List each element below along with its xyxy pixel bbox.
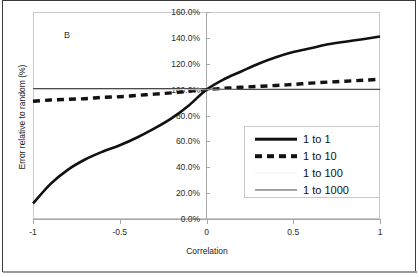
legend-line-icon xyxy=(255,173,297,174)
legend-swatch-icon xyxy=(253,183,299,197)
legend-swatch-icon xyxy=(253,166,299,180)
legend-line-icon xyxy=(255,138,297,141)
legend-item-label: 1 to 1 xyxy=(303,134,331,145)
legend-item-label: 1 to 1000 xyxy=(303,185,349,196)
legend-line-icon xyxy=(255,189,297,190)
y-axis-title: Error relative to random (%) xyxy=(17,27,27,207)
legend-line-icon xyxy=(255,154,297,158)
x-axis-title: Correlation xyxy=(33,246,381,256)
chart-legend: 1 to 11 to 101 to 1001 to 1000 xyxy=(244,126,380,198)
legend-item-label: 1 to 100 xyxy=(303,168,343,179)
line-chart: 0.0%20.0%40.0%60.0%80.0%100.0%120.0%140.… xyxy=(0,0,419,277)
panel-label: B xyxy=(64,30,70,40)
legend-item[interactable]: 1 to 100 xyxy=(245,164,381,182)
legend-item[interactable]: 1 to 10 xyxy=(245,147,381,165)
legend-item[interactable]: 1 to 1000 xyxy=(245,181,381,199)
legend-item-label: 1 to 10 xyxy=(303,151,337,162)
legend-swatch-icon xyxy=(253,132,299,146)
legend-item[interactable]: 1 to 1 xyxy=(245,130,381,148)
series-line xyxy=(33,79,380,101)
legend-swatch-icon xyxy=(253,149,299,163)
figure-panel-b: 0.0%20.0%40.0%60.0%80.0%100.0%120.0%140.… xyxy=(0,0,419,277)
